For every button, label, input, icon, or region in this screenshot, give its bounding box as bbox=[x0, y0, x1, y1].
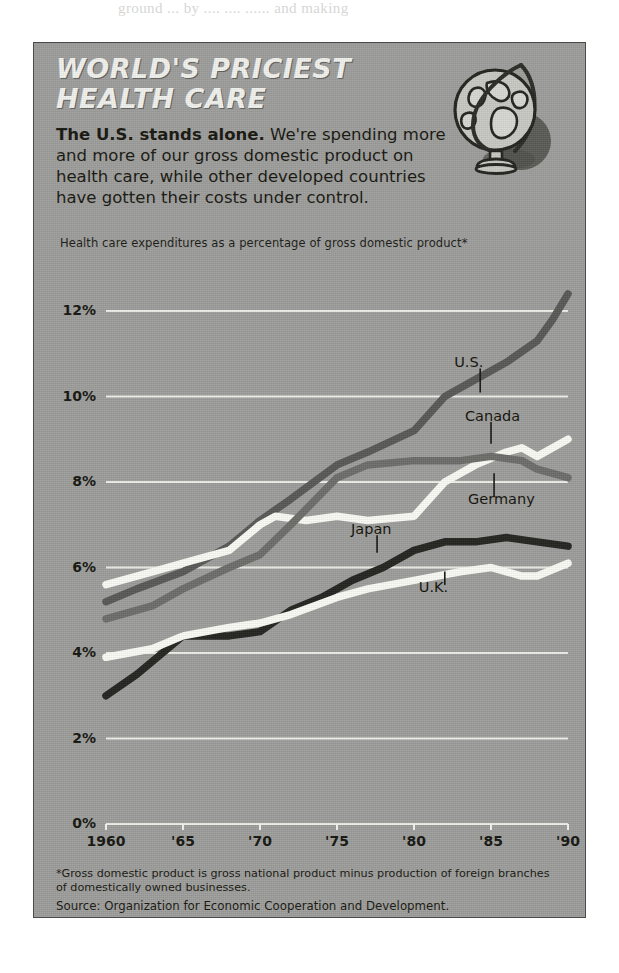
deck-lead: The U.S. stands alone. bbox=[56, 125, 265, 144]
y-axis-label: 2% bbox=[50, 730, 96, 746]
series-line-us bbox=[106, 294, 568, 602]
series-label-germany: Germany bbox=[468, 491, 535, 507]
y-axis-label: 0% bbox=[50, 815, 96, 831]
x-axis-label: '85 bbox=[463, 833, 519, 849]
x-axis-label: '65 bbox=[155, 833, 211, 849]
chart-subtitle: Health care expenditures as a percentage… bbox=[60, 236, 468, 250]
headline-line-2: HEALTH CARE bbox=[56, 85, 456, 112]
y-axis-label: 12% bbox=[50, 302, 96, 318]
deck-paragraph: The U.S. stands alone. We're spending mo… bbox=[56, 124, 454, 208]
infographic-panel: WORLD'S PRICIEST HEALTH CARE The U.S. st… bbox=[33, 42, 586, 918]
y-axis-label: 10% bbox=[50, 388, 96, 404]
page-bleed-text: ground ... by .... .... ...... and makin… bbox=[118, 0, 598, 20]
y-axis-label: 6% bbox=[50, 559, 96, 575]
x-axis-label: 1960 bbox=[78, 833, 134, 849]
x-axis-label: '70 bbox=[232, 833, 288, 849]
series-label-canada: Canada bbox=[465, 408, 520, 424]
y-axis-label: 8% bbox=[50, 473, 96, 489]
header-block: WORLD'S PRICIEST HEALTH CARE The U.S. st… bbox=[56, 55, 456, 208]
x-axis-label: '80 bbox=[386, 833, 442, 849]
series-line-japan bbox=[106, 538, 568, 696]
series-label-uk: U.K. bbox=[419, 579, 448, 595]
footnote-text: *Gross domestic product is gross nationa… bbox=[56, 867, 556, 894]
x-axis-label: '90 bbox=[540, 833, 586, 849]
y-axis-label: 4% bbox=[50, 644, 96, 660]
series-label-us: U.S. bbox=[454, 354, 483, 370]
headline-line-1: WORLD'S PRICIEST bbox=[56, 55, 456, 82]
source-text: Source: Organization for Economic Cooper… bbox=[56, 899, 556, 913]
x-axis-label: '75 bbox=[309, 833, 365, 849]
globe-icon bbox=[443, 55, 561, 180]
series-label-japan: Japan bbox=[351, 521, 391, 537]
